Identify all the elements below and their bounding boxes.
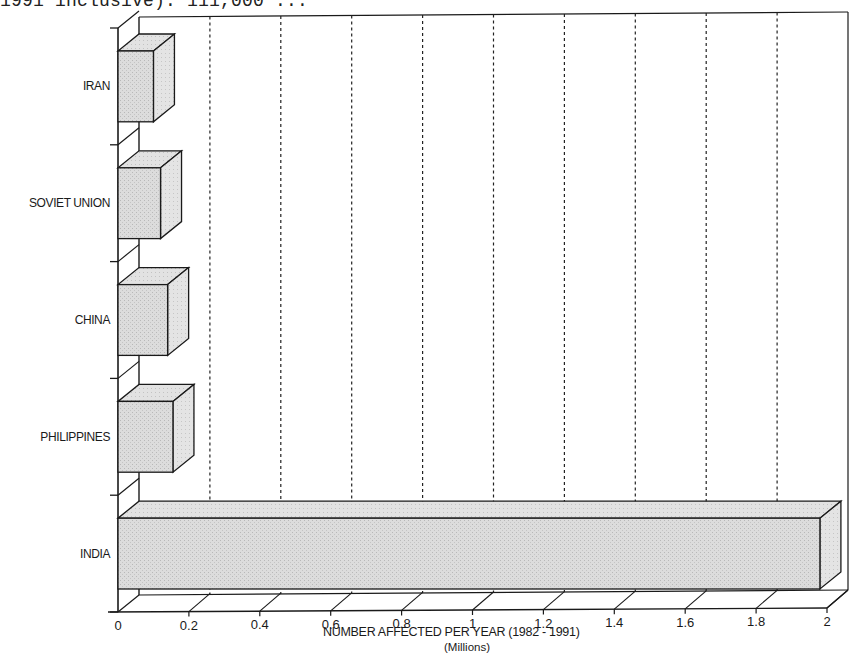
bars — [118, 34, 841, 589]
bar-india — [118, 501, 841, 589]
category-label: INDIA — [80, 547, 110, 561]
bar-chart: IRANSOVIET UNIONCHINAPHILIPPINESINDIA 00… — [0, 0, 857, 661]
x-tick-label: 2 — [823, 614, 830, 629]
x-axis-subtitle: (Millions) — [444, 641, 490, 653]
x-tick-label: 0 — [114, 618, 121, 633]
x-tick-label: 1.6 — [676, 615, 694, 630]
x-tick-label: 0.2 — [180, 618, 198, 633]
bar-iran — [118, 34, 174, 122]
category-labels: IRANSOVIET UNIONCHINAPHILIPPINESINDIA — [29, 79, 110, 560]
x-tick-label: 1.8 — [747, 614, 765, 629]
category-label: PHILIPPINES — [40, 430, 110, 444]
bar-philippines — [118, 384, 194, 472]
bar-china — [118, 268, 189, 356]
x-axis-title: NUMBER AFFECTED PER YEAR (1982 - 1991) — [323, 625, 580, 639]
category-label: SOVIET UNION — [29, 196, 110, 210]
x-tick-label: 1.4 — [605, 615, 623, 630]
x-tick-label: 0.4 — [251, 617, 269, 632]
category-label: CHINA — [75, 313, 111, 327]
category-label: IRAN — [83, 79, 110, 93]
bar-soviet-union — [118, 151, 182, 239]
